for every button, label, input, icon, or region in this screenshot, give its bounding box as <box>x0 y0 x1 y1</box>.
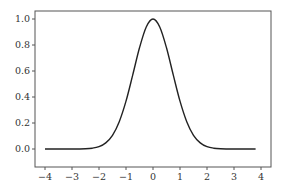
chart: 0.00.20.40.60.81.0 −4−3−2−101234 <box>0 0 281 184</box>
y-tick-label: 0.4 <box>15 91 30 102</box>
plot-lines <box>45 19 256 149</box>
x-axis-ticks: −4−3−2−101234 <box>38 167 264 182</box>
series-line <box>45 19 256 149</box>
y-tick-label: 0.6 <box>15 65 30 76</box>
x-tick-label: −3 <box>65 171 79 182</box>
x-tick-label: −1 <box>119 171 133 182</box>
x-tick-label: 1 <box>177 171 183 182</box>
x-tick-label: −2 <box>92 171 106 182</box>
y-tick-label: 0.0 <box>15 143 30 154</box>
y-tick-label: 0.8 <box>15 39 30 50</box>
axes-box <box>35 11 271 167</box>
x-tick-label: 4 <box>258 171 264 182</box>
y-tick-label: 0.2 <box>15 117 30 128</box>
x-tick-label: 2 <box>204 171 210 182</box>
plot-frame <box>35 11 271 167</box>
x-tick-label: −4 <box>38 171 52 182</box>
x-tick-label: 0 <box>150 171 156 182</box>
x-tick-label: 3 <box>231 171 237 182</box>
y-tick-label: 1.0 <box>15 13 30 24</box>
y-axis-ticks: 0.00.20.40.60.81.0 <box>15 13 35 154</box>
